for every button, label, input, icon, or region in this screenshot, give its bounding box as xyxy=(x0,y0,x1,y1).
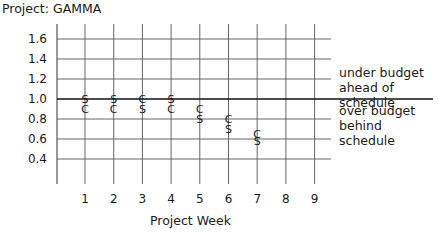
x-tick-label: 4 xyxy=(167,192,175,206)
x-axis-label: Project Week xyxy=(150,213,231,228)
x-tick-label: 1 xyxy=(81,192,89,206)
x-tick-label: 2 xyxy=(110,192,118,206)
y-tick-label: 1.6 xyxy=(28,32,47,46)
y-tick-label: 1.2 xyxy=(28,72,47,86)
y-tick-label: 1.0 xyxy=(28,92,47,106)
data-marker-c: C xyxy=(196,103,204,116)
annotation-below: over budget behind schedule xyxy=(339,103,438,148)
data-marker-c: C xyxy=(81,103,89,116)
data-marker-c: C xyxy=(139,93,147,106)
y-tick-label: 0.6 xyxy=(28,132,47,146)
annotation-under-budget: under budget xyxy=(339,65,438,80)
x-tick-label: 7 xyxy=(253,192,261,206)
x-tick-label: 3 xyxy=(139,192,147,206)
y-tick-label: 1.4 xyxy=(28,52,47,66)
data-marker-c: C xyxy=(253,128,261,141)
x-tick-label: 9 xyxy=(311,192,319,206)
x-tick-label: 8 xyxy=(282,192,290,206)
data-marker-c: C xyxy=(110,103,118,116)
annotation-over-budget: over budget xyxy=(339,103,438,118)
y-tick-label: 0.4 xyxy=(28,152,47,166)
y-tick-label: 0.8 xyxy=(28,112,47,126)
x-tick-label: 6 xyxy=(225,192,233,206)
annotation-behind-schedule: behind schedule xyxy=(339,118,438,148)
x-tick-label: 5 xyxy=(196,192,204,206)
data-marker-c: C xyxy=(225,113,233,126)
data-marker-c: C xyxy=(167,103,175,116)
